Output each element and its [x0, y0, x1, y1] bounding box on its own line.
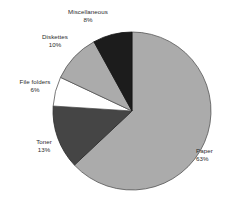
pie-slice-group — [53, 32, 211, 190]
slice-label-paper-name: Paper — [196, 147, 238, 155]
slice-label-miscellaneous: Miscellaneous 8% — [52, 8, 124, 24]
slice-label-toner-percent: 13% — [14, 146, 74, 154]
pie-chart-canvas — [0, 0, 240, 202]
slice-label-diskettes-name: Diskettes — [22, 33, 88, 41]
slice-label-toner-name: Toner — [14, 138, 74, 146]
slice-label-toner: Toner 13% — [14, 138, 74, 154]
slice-label-miscellaneous-name: Miscellaneous — [52, 8, 124, 16]
slice-label-file-folders-percent: 6% — [2, 86, 68, 94]
slice-label-diskettes-percent: 10% — [22, 41, 88, 49]
slice-label-file-folders-name: File folders — [2, 78, 68, 86]
slice-label-paper-percent: 63% — [196, 155, 238, 163]
pie-chart: Miscellaneous 8% Diskettes 10% File fold… — [0, 0, 240, 202]
slice-label-diskettes: Diskettes 10% — [22, 33, 88, 49]
slice-label-file-folders: File folders 6% — [2, 78, 68, 94]
slice-label-miscellaneous-percent: 8% — [52, 16, 124, 24]
slice-label-paper: Paper 63% — [196, 147, 238, 163]
